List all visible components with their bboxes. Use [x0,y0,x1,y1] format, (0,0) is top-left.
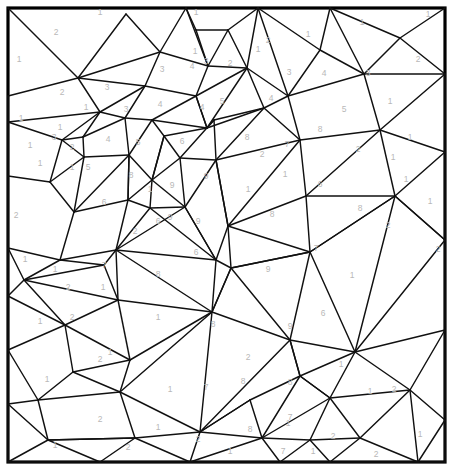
cell-number-label: 7 [314,243,319,253]
cell-number-label: 1 [148,184,153,194]
cell-number-label: 2 [196,434,201,444]
cell-number-label: 8 [288,377,293,387]
cell-number-label: 1 [23,254,28,264]
cell-number-label: 4 [158,99,163,109]
cell-number-label: 9 [196,216,201,226]
cell-number-label: 2 [436,244,441,254]
cell-number-label: 2 [54,27,59,37]
cell-number-label: 1 [426,9,431,19]
cell-number-label: 1 [53,264,58,274]
cell-number-label: 5 [136,137,141,147]
cell-number-label: 6 [318,179,323,189]
cell-number-label: 4 [106,134,111,144]
cell-number-label: 1 [418,429,423,439]
cell-number-label: 2 [374,449,379,459]
cell-number-label: 6 [321,308,326,318]
cell-number-label: 1 [193,46,198,56]
cell-number-label: 8 [211,319,216,329]
cell-number-label: 1 [360,17,365,27]
color-by-number-canvas: 2111121112334321343211344545113456878115… [0,0,453,475]
cell-number-label: 1 [388,96,393,106]
cell-number-label: 2 [133,226,138,236]
cell-number-label: 1 [53,440,58,450]
cell-number-label: 3 [124,104,129,114]
cell-number-label: 6 [156,216,161,226]
cell-number-label: 4 [269,93,274,103]
cell-number-label: 9 [266,264,271,274]
cell-number-label: 5 [342,104,347,114]
cell-number-label: 7 [102,260,107,270]
cell-number-label: 1 [70,162,75,172]
cell-number-label: 1 [311,446,316,456]
cell-number-label: 8 [156,269,161,279]
cell-number-label: 8 [245,132,250,142]
cell-number-label: 2 [14,210,19,220]
cell-number-label: 3 [366,68,371,78]
cell-number-label: 2 [98,414,103,424]
cell-number-label: 8 [270,209,275,219]
cell-number-label: 2 [331,431,336,441]
cell-number-label: 1 [339,359,344,369]
cell-number-label: 3 [160,64,165,74]
cell-number-label: 4 [190,61,195,71]
cell-number-label: 3 [105,82,110,92]
cell-number-label: 2 [66,282,71,292]
cell-number-label: 8 [248,424,253,434]
cell-number-label: 9 [168,212,173,222]
cell-number-label: 1 [408,132,413,142]
coloring-page-root: 2111121112334321343211344545113456878115… [0,0,453,475]
cell-number-label: 1 [156,422,161,432]
cell-number-label: 1 [19,113,24,123]
cell-number-label: 8 [129,170,134,180]
cell-number-label: 1 [108,347,113,357]
cell-number-label: 7 [204,382,209,392]
cell-edge [150,207,185,208]
cell-number-label: 1 [156,312,161,322]
cell-number-label: 2 [416,54,421,64]
cell-number-label: 2 [392,384,397,394]
cell-number-label: 8 [318,124,323,134]
cell-number-label: 3 [287,67,292,77]
cell-number-label: 6 [102,197,107,207]
cell-number-label: 2 [228,58,233,68]
cell-number-label: 2 [246,352,251,362]
cell-number-label: 9 [204,171,209,181]
cell-number-label: 1 [58,122,63,132]
cell-number-label: 2 [260,149,265,159]
cell-number-label: 1 [84,102,89,112]
cell-number-label: 5 [220,96,225,106]
cell-number-label: 6 [180,136,185,146]
cell-number-label: 2 [386,220,391,230]
cell-number-label: 2 [98,354,103,364]
cell-number-label: 1 [17,54,22,64]
cell-number-label: 2 [266,35,271,45]
cell-number-label: 8 [241,376,246,386]
cell-number-label: 1 [38,158,43,168]
cell-number-label: 1 [256,44,261,54]
cell-number-label: 1 [428,196,433,206]
cell-number-label: 7 [285,139,290,149]
cell-number-label: 1 [246,184,251,194]
cell-number-label: 1 [228,446,233,456]
cell-number-label: 7 [281,446,286,456]
cell-number-label: 1 [283,169,288,179]
cell-number-label: 1 [194,7,199,17]
cell-number-label: 2 [70,312,75,322]
cell-number-label: 1 [306,29,311,39]
cell-number-label: 1 [404,174,409,184]
puzzle-outer-frame [8,8,445,462]
cell-number-label: 5 [86,162,91,172]
cell-number-label: 2 [126,442,131,452]
cell-number-label: 1 [45,374,50,384]
cell-number-label: 9 [288,321,293,331]
cell-number-label: 2 [60,87,65,97]
cell-number-label: 8 [358,203,363,213]
cell-number-label: 1 [98,7,103,17]
cell-number-label: 4 [200,102,205,112]
cell-number-label: 2 [70,142,75,152]
cell-number-label: 1 [368,386,373,396]
cell-number-label: 1 [38,316,43,326]
cell-number-label: 2 [356,144,361,154]
cell-number-label: 1 [168,384,173,394]
cell-edge [83,137,84,157]
